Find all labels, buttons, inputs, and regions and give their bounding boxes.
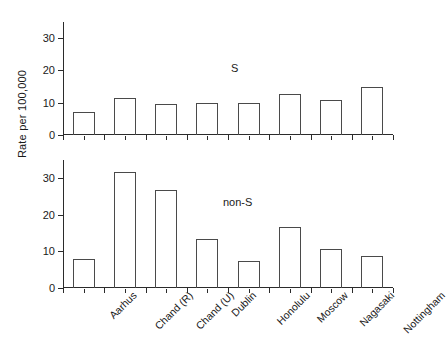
- x-tick-mark-center: [249, 136, 250, 140]
- panel-annotation-s: S: [231, 62, 238, 74]
- y-tick-label: 30: [43, 32, 55, 44]
- x-axis-label: Moscow: [314, 289, 350, 325]
- x-tick-mark-center: [207, 136, 208, 140]
- panel-annotation-non-s: non-S: [223, 196, 252, 208]
- x-tick-mark-center: [290, 136, 291, 140]
- y-tick-mark: [58, 251, 63, 252]
- y-tick-mark: [58, 70, 63, 71]
- bar: [114, 98, 136, 135]
- x-tick-mark: [311, 135, 312, 140]
- bar: [279, 227, 301, 288]
- y-tick-label: 30: [43, 172, 55, 184]
- x-axis-label: Nottingham: [401, 289, 447, 335]
- y-axis-label: Rate per 100,000: [16, 44, 28, 184]
- y-tick-mark: [58, 103, 63, 104]
- x-axis-label: Aarhus: [106, 289, 138, 321]
- x-tick-mark-center: [331, 136, 332, 140]
- y-tick-label: 0: [49, 129, 55, 141]
- x-axis-label: Dublin: [229, 289, 259, 319]
- x-axis-label: Nagasaki: [357, 289, 396, 328]
- x-tick-mark-center: [125, 136, 126, 140]
- y-axis-line-top: [63, 22, 64, 135]
- y-axis-line-bottom: [63, 160, 64, 288]
- x-tick-mark: [393, 288, 394, 293]
- bar: [279, 94, 301, 135]
- bar: [320, 100, 342, 135]
- y-tick-label: 0: [49, 282, 55, 294]
- x-tick-mark: [393, 135, 394, 140]
- y-tick-label: 10: [43, 97, 55, 109]
- bar: [238, 103, 260, 135]
- x-tick-mark: [146, 135, 147, 140]
- bar: [155, 104, 177, 135]
- bar: [238, 261, 260, 288]
- chart-panel-s: S 0102030: [63, 22, 393, 135]
- bar: [114, 172, 136, 288]
- bar: [361, 87, 383, 135]
- x-axis-label: Honolulu: [274, 289, 312, 327]
- y-tick-label: 20: [43, 209, 55, 221]
- y-tick-mark: [58, 215, 63, 216]
- x-tick-mark: [104, 135, 105, 140]
- x-tick-mark-center: [166, 136, 167, 140]
- bar: [361, 256, 383, 288]
- y-tick-mark: [58, 38, 63, 39]
- x-tick-mark-center: [372, 136, 373, 140]
- x-tick-mark: [269, 135, 270, 140]
- bar: [73, 259, 95, 288]
- x-tick-mark: [63, 135, 64, 140]
- bar: [320, 249, 342, 288]
- x-tick-mark: [352, 135, 353, 140]
- x-tick-mark-center: [84, 136, 85, 140]
- x-tick-mark: [187, 135, 188, 140]
- y-tick-label: 20: [43, 64, 55, 76]
- x-tick-mark: [228, 135, 229, 140]
- bar: [73, 112, 95, 135]
- bar: [196, 103, 218, 135]
- bar: [155, 190, 177, 288]
- y-tick-label: 10: [43, 245, 55, 257]
- chart-panel-non-s: non-S 0102030: [63, 160, 393, 288]
- y-tick-mark: [58, 178, 63, 179]
- bar: [196, 239, 218, 288]
- x-axis-category-labels: AarhusChand (R)Chand (U)DublinHonoluluMo…: [63, 289, 393, 350]
- x-axis-label: Chand (R): [152, 289, 195, 332]
